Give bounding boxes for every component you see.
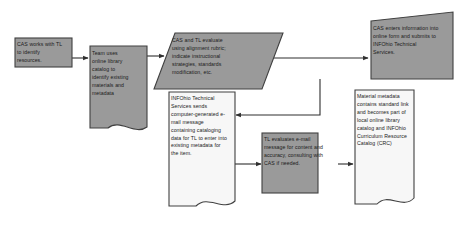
node-tl-evaluates-email (262, 133, 318, 193)
node-cas-works-with-tl (15, 38, 72, 67)
node-cas-and-tl-evaluate (154, 33, 283, 89)
flowchart-canvas: CAS works with TL to identify resources.… (0, 0, 459, 242)
node-team-uses-online-library-catalog (90, 46, 147, 130)
node-material-metadata-catalog (355, 90, 414, 204)
flowchart-shapes-and-connectors (0, 0, 459, 242)
node-cas-enters-information (371, 12, 453, 79)
node-infohio-technical-services-sends-email (169, 92, 235, 206)
